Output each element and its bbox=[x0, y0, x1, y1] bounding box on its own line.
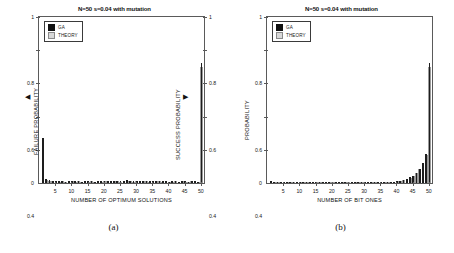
y-tick-right: 0.4 bbox=[203, 117, 207, 118]
bar bbox=[341, 182, 343, 183]
y-tick-right: 0.2 bbox=[203, 150, 207, 151]
x-tick-label: 15 bbox=[313, 188, 319, 194]
y-tick-label: 0.6 bbox=[255, 147, 262, 153]
legend-item-theory: THEORY bbox=[276, 32, 306, 39]
bar bbox=[344, 182, 346, 183]
bar bbox=[328, 182, 330, 183]
bar bbox=[100, 181, 102, 183]
x-tick-label: 25 bbox=[345, 188, 351, 194]
bar bbox=[45, 179, 47, 183]
legend-label-theory: THEORY bbox=[58, 33, 78, 38]
bar bbox=[175, 181, 177, 183]
bar bbox=[425, 154, 427, 183]
bar bbox=[61, 181, 63, 183]
bar bbox=[110, 181, 112, 183]
bar bbox=[84, 181, 86, 183]
bar bbox=[280, 182, 282, 183]
legend-swatch-theory bbox=[48, 32, 55, 39]
y-tick-label-right: 0.8 bbox=[209, 80, 216, 86]
bar bbox=[49, 180, 51, 183]
bar bbox=[107, 181, 109, 183]
bar bbox=[403, 180, 405, 183]
panel-caption-b: (b) bbox=[227, 222, 454, 232]
plot-title-b: N=50 s=0.04 with mutation bbox=[305, 6, 378, 12]
bar bbox=[91, 181, 93, 183]
y-tick: 0.2 bbox=[264, 150, 268, 151]
x-tick: 10 bbox=[299, 182, 300, 186]
bar bbox=[383, 182, 385, 183]
bar bbox=[335, 182, 337, 183]
bar bbox=[68, 181, 70, 183]
x-tick: 35 bbox=[380, 182, 381, 186]
bar bbox=[429, 63, 431, 183]
plot-title-a: N=50 s=0.04 with mutation bbox=[78, 6, 151, 12]
bar bbox=[351, 182, 353, 183]
y-tick-label: 0.8 bbox=[255, 80, 262, 86]
x-tick-label: 15 bbox=[85, 188, 91, 194]
panel-a: GA THEORY 0.20.20.40.40.60.60.80.8115101… bbox=[0, 0, 227, 253]
bar bbox=[94, 182, 96, 183]
bar bbox=[65, 182, 67, 183]
bar bbox=[422, 163, 424, 183]
legend-label-ga: GA bbox=[286, 25, 293, 30]
bar bbox=[78, 181, 80, 183]
x-tick-label: 50 bbox=[198, 188, 204, 194]
bar bbox=[361, 182, 363, 183]
y-tick: 1 bbox=[36, 17, 40, 18]
legend-swatch-ga bbox=[276, 24, 283, 31]
bar bbox=[293, 182, 295, 183]
bar bbox=[123, 181, 125, 183]
bar bbox=[81, 182, 83, 183]
legend-swatch-ga bbox=[48, 24, 55, 31]
x-tick: 45 bbox=[185, 182, 186, 186]
x-tick-label: 35 bbox=[377, 188, 383, 194]
y-tick: 0.8 bbox=[264, 50, 268, 51]
legend-b: GA THEORY bbox=[272, 21, 311, 42]
bar bbox=[52, 181, 54, 183]
bar bbox=[74, 181, 76, 183]
x-tick: 5 bbox=[55, 182, 56, 186]
y-tick-label-right: 0.6 bbox=[209, 147, 216, 153]
origin-label-a: 0 bbox=[31, 180, 34, 186]
x-tick: 20 bbox=[332, 182, 333, 186]
panel-b: GA THEORY 0.20.40.60.8151015202530354045… bbox=[227, 0, 454, 253]
bar bbox=[113, 181, 115, 183]
bar bbox=[273, 182, 275, 183]
figure-container: GA THEORY 0.20.20.40.40.60.60.80.8115101… bbox=[0, 0, 454, 253]
legend-label-theory: THEORY bbox=[286, 33, 306, 38]
x-tick: 25 bbox=[120, 182, 121, 186]
x-tick: 15 bbox=[316, 182, 317, 186]
bar bbox=[133, 181, 135, 183]
bar bbox=[306, 182, 308, 183]
y-tick-label: 0.4 bbox=[255, 213, 262, 219]
x-tick-label: 40 bbox=[166, 188, 172, 194]
x-tick: 20 bbox=[104, 182, 105, 186]
bar bbox=[58, 181, 60, 183]
bar bbox=[191, 181, 193, 183]
bar bbox=[139, 181, 141, 183]
bar bbox=[277, 182, 279, 183]
bar bbox=[374, 182, 376, 183]
x-tick-label: 45 bbox=[410, 188, 416, 194]
bar bbox=[149, 181, 151, 183]
x-tick-label: 25 bbox=[117, 188, 123, 194]
bar bbox=[322, 182, 324, 183]
x-tick: 15 bbox=[88, 182, 89, 186]
panel-caption-a: (a) bbox=[0, 222, 227, 232]
y-tick-label: 0.8 bbox=[27, 80, 34, 86]
bar bbox=[178, 182, 180, 183]
bar bbox=[309, 182, 311, 183]
x-tick-label: 45 bbox=[182, 188, 188, 194]
x-tick-label: 40 bbox=[394, 188, 400, 194]
x-tick-label: 50 bbox=[426, 188, 432, 194]
bar bbox=[197, 182, 199, 183]
x-tick: 35 bbox=[152, 182, 153, 186]
bar bbox=[116, 181, 118, 183]
bar bbox=[142, 181, 144, 183]
bar bbox=[42, 138, 44, 183]
y-axis-label-probability: PROBABILITY bbox=[244, 100, 250, 140]
legend-label-ga: GA bbox=[58, 25, 65, 30]
y-tick: 0.6 bbox=[264, 83, 268, 84]
bar bbox=[126, 180, 128, 183]
x-tick: 50 bbox=[429, 182, 430, 186]
